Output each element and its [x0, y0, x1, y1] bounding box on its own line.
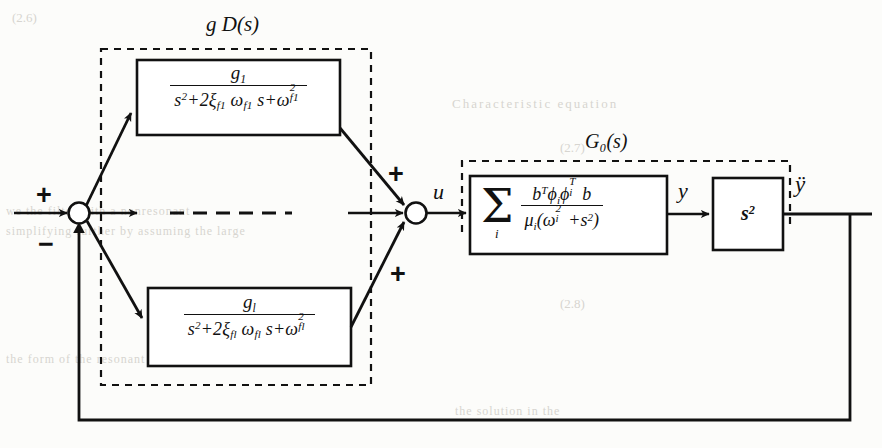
- omega-sub-sup: 2i: [555, 208, 568, 226]
- plant-formula: Σ i bTϕiϕTib μi(ω2i+s2): [481, 182, 603, 231]
- omega-sub-sup: 2f1: [290, 88, 303, 106]
- group-label-plant: G₀(s): [585, 130, 628, 153]
- signal-label-u: u: [433, 179, 444, 205]
- filter-first-fraction: g1 s2+2ξf1 ωf1 s+ω2f1: [170, 63, 306, 110]
- summing-junction-right: [406, 203, 427, 224]
- filter-last-numerator: gl: [184, 292, 315, 314]
- omega-sub-sup: 2fl: [298, 317, 311, 335]
- sign-minus-feedback: −: [38, 231, 54, 258]
- wire-junction-to-filter-first: [86, 113, 131, 206]
- sign-plus-upper: +: [388, 161, 404, 188]
- sign-plus-reference: +: [36, 182, 52, 209]
- wire-junction-to-filter-last: [87, 221, 142, 318]
- filter-first-formula: g1 s2+2ξf1 ωf1 s+ω2f1: [147, 63, 330, 110]
- filter-last-denominator: s2+2ξfl ωfl s+ω2fl: [184, 314, 315, 339]
- filter-first-numerator: g1: [170, 63, 306, 85]
- phi-sub-sup: Ti: [569, 182, 582, 200]
- group-label-controller: g D(s): [206, 12, 259, 37]
- filter-last-formula: gl s2+2ξfl ωfl s+ω2fl: [158, 292, 341, 339]
- signal-label-y: y: [678, 178, 688, 204]
- sign-plus-lower: +: [390, 261, 406, 288]
- differentiator-label: s2: [713, 202, 783, 225]
- figure-canvas: (2.6) Characteristic equation (2.7) (2.8…: [0, 0, 882, 448]
- plant-fraction: bTϕiϕTib μi(ω2i+s2): [521, 182, 604, 231]
- plant-numerator: bTϕiϕTib: [521, 182, 604, 205]
- signal-label-ydot2: ÿ: [795, 172, 805, 198]
- filter-first-denominator: s2+2ξf1 ωf1 s+ω2f1: [170, 85, 306, 110]
- plant-denominator: μi(ω2i+s2): [521, 205, 604, 230]
- summation-operator: Σ i: [481, 184, 514, 228]
- filter-last-fraction: gl s2+2ξfl ωfl s+ω2fl: [184, 292, 315, 339]
